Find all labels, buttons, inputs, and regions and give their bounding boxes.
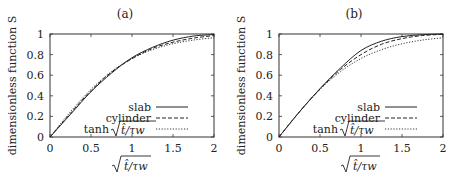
y-tick-label: 0 [266, 131, 273, 144]
legend-item: cylinder [106, 112, 188, 125]
x-tick-label: 2 [211, 142, 218, 155]
y-tick-label: 0.2 [256, 110, 274, 123]
y-tick-label: 0.8 [256, 49, 274, 62]
y-axis-label: dimensionless function S [6, 16, 19, 155]
y-tick-label: 0 [37, 131, 44, 144]
x-tick-label: 0.5 [311, 142, 329, 155]
legend-item: cylinder [335, 112, 417, 125]
legend-label: tanh [313, 123, 338, 136]
x-tick-label: 2 [440, 142, 447, 155]
x-tick-label: 1.5 [393, 142, 411, 155]
y-tick-label: 0.2 [27, 110, 45, 123]
x-tick-label: 1 [129, 142, 136, 155]
y-tick-label: 0.6 [256, 69, 274, 82]
panel-title: (a) [117, 7, 134, 21]
legend-item: tanht̂/τw [313, 121, 417, 137]
x-axis-label: t̂/τw [124, 159, 148, 173]
x-tick-label: 1 [358, 142, 365, 155]
legend-tanh-arg: t̂/τw [121, 123, 145, 137]
y-tick-label: 0.6 [27, 69, 45, 82]
y-tick-label: 1 [37, 28, 44, 41]
chart-panel-b: (b)00.20.40.60.8100.511.52dimensionless … [235, 7, 447, 173]
figure: (a)00.20.40.60.8100.511.52dimensionless … [0, 0, 463, 181]
y-tick-label: 0.4 [256, 90, 274, 103]
x-axis-label: t̂/τw [353, 159, 377, 173]
x-tick-label: 0 [47, 142, 54, 155]
x-tick-label: 0.5 [82, 142, 100, 155]
x-tick-label: 0 [276, 142, 283, 155]
legend-label: tanh [84, 123, 109, 136]
y-tick-label: 0.4 [27, 90, 45, 103]
y-tick-label: 1 [266, 28, 273, 41]
legend-tanh-arg: t̂/τw [350, 123, 374, 137]
legend-item: tanht̂/τw [84, 121, 188, 137]
y-tick-label: 0.8 [27, 49, 45, 62]
chart-panel-a: (a)00.20.40.60.8100.511.52dimensionless … [6, 7, 218, 173]
panel-title: (b) [345, 7, 362, 21]
x-tick-label: 1.5 [164, 142, 182, 155]
y-axis-label: dimensionless function S [235, 16, 248, 155]
